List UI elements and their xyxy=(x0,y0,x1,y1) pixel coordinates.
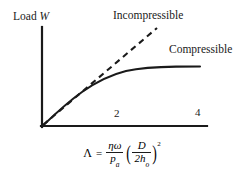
formula-row: Λ = ηω pa ( D 2ho ) 2 xyxy=(83,140,161,167)
formula-paren-open: ( xyxy=(127,145,132,162)
formula-h-subscript: o xyxy=(145,160,149,169)
formula-parenthesized-term: ( D 2ho ) 2 xyxy=(125,140,161,167)
formula-outer-fraction: ηω pa xyxy=(106,140,123,167)
formula-pa: pa xyxy=(108,153,121,167)
formula-2h: 2h xyxy=(134,152,145,164)
figure-container: Load W Incompressible Compressible 2 4 Λ… xyxy=(0,0,245,175)
y-axis-label-text: Load xyxy=(13,10,40,22)
formula-2ho: 2ho xyxy=(132,153,151,167)
formula-equals: = xyxy=(94,147,104,159)
curve-label-incompressible: Incompressible xyxy=(113,10,183,22)
y-axis-label-variable: W xyxy=(40,10,50,22)
formula-p-subscript: a xyxy=(116,160,120,169)
formula-lambda: Λ xyxy=(83,146,92,161)
y-axis-label: Load W xyxy=(13,11,49,23)
formula-eta-omega: ηω xyxy=(106,140,123,152)
x-tick-label-2: 2 xyxy=(114,108,120,119)
curve-compressible xyxy=(43,67,200,126)
axis-x-formula: Λ = ηω pa ( D 2ho ) 2 xyxy=(0,140,245,167)
x-tick-label-4: 4 xyxy=(195,107,201,118)
formula-inner-fraction: D 2ho xyxy=(132,140,151,167)
formula-exponent: 2 xyxy=(157,140,161,148)
formula-D: D xyxy=(136,140,148,152)
formula-p: p xyxy=(110,152,116,164)
curve-label-compressible: Compressible xyxy=(169,44,232,56)
